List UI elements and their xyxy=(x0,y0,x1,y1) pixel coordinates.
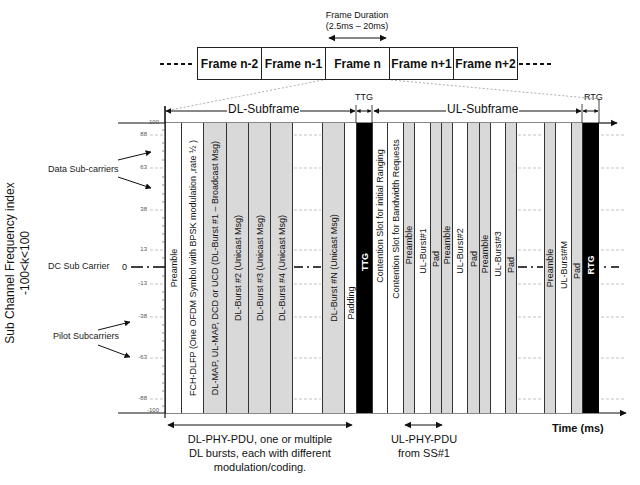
column-ul-burst-1: UL-Burst#1 xyxy=(414,123,430,413)
data-subcarriers-label: Data Sub-carriers xyxy=(48,164,119,174)
column-label: Contention Slot for initial Ranging xyxy=(375,149,385,283)
column-label: Preamble xyxy=(480,234,490,273)
column-label: DL-MAP, UL-MAP, DCD or UCD (DL-Burst #1 … xyxy=(210,141,220,395)
ul-phy-pdu-caption: UL-PHY-PDU from SS#1 xyxy=(374,432,474,460)
column-label: DL-Burst #N (Unicast Msg) xyxy=(329,214,339,322)
column-ttg: TTG xyxy=(356,123,372,413)
tick-minus-100: -100 xyxy=(133,407,159,413)
column-label: Pad xyxy=(469,251,479,267)
column-padding: Padding xyxy=(344,123,356,413)
column-ul-burst-3: UL-Burst#3 xyxy=(490,123,505,413)
column-contention-bw: Contention Slot for Bandwidth Requests xyxy=(387,123,403,413)
column-ul-burst-2: UL-Burst#2 xyxy=(452,123,467,413)
column-fch-dlfp: FCH-DLFP (One OFDM Symbol with BPSK modu… xyxy=(181,123,203,413)
column-ul-gap xyxy=(516,123,544,413)
column-label: FCH-DLFP (One OFDM Symbol with BPSK modu… xyxy=(188,140,198,396)
column-dl-burst-4: DL-Burst #4 (Unicast Msg) xyxy=(270,123,292,413)
dl-subframe-label: DL-Subframe xyxy=(227,102,300,116)
column-label: DL-Burst #4 (Unicast Msg) xyxy=(277,215,287,321)
column-label: Preamble xyxy=(442,226,452,265)
frame-n-minus-2: Frame n-2 xyxy=(197,47,262,80)
column-dl-preamble: Preamble xyxy=(165,123,181,413)
column-ul-preamble-m: Preamble xyxy=(544,123,555,413)
column-ul-preamble-1: Preamble xyxy=(403,123,414,413)
tick-63: 63 xyxy=(121,164,147,170)
column-ul-pad-2: Pad xyxy=(467,123,479,413)
column-label: UL-Burst#M xyxy=(559,241,569,289)
frame-n-minus-1: Frame n-1 xyxy=(261,47,326,80)
column-label: Pad xyxy=(431,251,441,267)
column-ul-pad-m: Pad xyxy=(571,123,582,413)
column-label: RTG xyxy=(586,256,596,275)
dl-phy-pdu-line3: modulation/coding. xyxy=(170,460,350,474)
column-label: Preamble xyxy=(169,249,179,288)
column-dl-burst-1: DL-MAP, UL-MAP, DCD or UCD (DL-Burst #1 … xyxy=(203,123,226,413)
column-label: Pad xyxy=(572,263,582,279)
column-label: Contention Slot for Bandwidth Requests xyxy=(391,139,401,299)
column-ul-preamble-3: Preamble xyxy=(479,123,490,413)
y-axis-title: Sub Channel Frequency index -100<k<100 xyxy=(3,163,33,363)
dl-phy-pdu-line2: DL bursts, each with different xyxy=(170,446,350,460)
frame-n-plus-2: Frame n+2 xyxy=(453,47,518,80)
tick-13: 13 xyxy=(121,246,147,252)
pilot-subcarriers-label: Pilot Subcarriers xyxy=(53,331,119,341)
x-axis-title: Time (ms) xyxy=(552,422,604,434)
column-ul-pad-1: Pad xyxy=(430,123,441,413)
column-ul-pad-3: Pad xyxy=(505,123,516,413)
column-label: TTG xyxy=(360,253,370,271)
tick-minus-88: -88 xyxy=(121,395,147,401)
rtg-top-label: RTG xyxy=(584,92,603,102)
ul-subframe-label: UL-Subframe xyxy=(446,102,519,116)
ttg-top-label: TTG xyxy=(355,92,373,102)
ul-phy-pdu-line2: from SS#1 xyxy=(374,446,474,460)
column-dl-burst-2: DL-Burst #2 (Unicast Msg) xyxy=(226,123,248,413)
column-label: DL-Burst #2 (Unicast Msg) xyxy=(233,215,243,321)
column-contention-ranging: Contention Slot for initial Ranging xyxy=(372,123,387,413)
tick-minus-13: -13 xyxy=(121,280,147,286)
tick-38: 38 xyxy=(121,206,147,212)
column-dl-gap xyxy=(292,123,322,413)
column-ul-burst-m: UL-Burst#M xyxy=(555,123,571,413)
column-label: Padding xyxy=(346,286,356,319)
column-label: UL-Burst#3 xyxy=(493,231,503,277)
dl-phy-pdu-line1: DL-PHY-PDU, one or multiple xyxy=(170,432,350,446)
dc-subcarrier-label: DC Sub Carrier xyxy=(48,261,110,271)
column-label: Pad xyxy=(506,257,516,273)
dl-phy-pdu-caption: DL-PHY-PDU, one or multiple DL bursts, e… xyxy=(170,432,350,474)
ul-phy-pdu-line1: UL-PHY-PDU xyxy=(374,432,474,446)
y-axis-title-line2: -100<k<100 xyxy=(18,163,33,363)
column-label: UL-Burst#2 xyxy=(455,228,465,274)
column-label: UL-Burst#1 xyxy=(418,228,428,274)
frame-n: Frame n xyxy=(325,47,390,80)
column-dl-burst-3: DL-Burst #3 (Unicast Msg) xyxy=(248,123,270,413)
column-ul-preamble-2: Preamble xyxy=(441,123,452,413)
column-label: Preamble xyxy=(404,226,414,265)
tick-minus-38: -38 xyxy=(121,313,147,319)
y-axis-title-line1: Sub Channel Frequency index xyxy=(3,163,18,363)
column-dl-burst-n: DL-Burst #N (Unicast Msg) xyxy=(322,123,344,413)
column-label: DL-Burst #3 (Unicast Msg) xyxy=(255,215,265,321)
tick-minus-63: -63 xyxy=(121,354,147,360)
column-rtg: RTG xyxy=(582,123,599,413)
tick-88: 88 xyxy=(121,131,147,137)
frame-n-plus-1: Frame n+1 xyxy=(389,47,454,80)
tick-100: 100 xyxy=(133,119,159,125)
column-label: Preamble xyxy=(545,249,555,288)
